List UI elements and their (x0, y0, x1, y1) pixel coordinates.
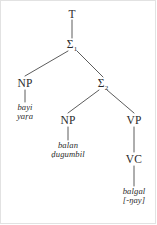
node-sigma2: Σ2 (98, 77, 108, 93)
node-vc: VC (126, 153, 142, 165)
node-np1-label: NP (17, 77, 32, 89)
node-t: T (68, 8, 75, 20)
terminal-vc: balgal [-ŋay] (123, 187, 146, 205)
edge-sigma1-np1 (25, 51, 68, 76)
node-vp: VP (126, 114, 141, 126)
node-vc-label: VC (126, 153, 142, 165)
node-sigma1: Σ1 (67, 38, 77, 54)
terminal-np1: bayi yaṛa (17, 103, 33, 121)
node-t-label: T (68, 8, 75, 20)
edge-sigma2-np2 (68, 90, 99, 113)
node-sigma2-label: Σ (98, 77, 105, 89)
terminal-vc-line2: [-ŋay] (123, 196, 146, 205)
terminal-np1-line2: yaṛa (17, 112, 33, 121)
node-np2: NP (60, 114, 75, 126)
edge-sigma2-vp (107, 90, 134, 113)
node-sigma1-subscript: 1 (74, 45, 78, 53)
node-sigma1-label: Σ (67, 38, 74, 50)
edge-sigma1-sigma2 (77, 51, 103, 77)
node-sigma2-subscript: 2 (105, 84, 109, 92)
syntax-tree-figure: T Σ1 NP Σ2 bayi yaṛa NP VP balan ḍugumbi… (0, 0, 157, 225)
terminal-np2-line2: ḍugumbil (51, 150, 84, 159)
terminal-np2: balan ḍugumbil (51, 141, 84, 159)
node-vp-label: VP (126, 114, 141, 126)
node-np2-label: NP (60, 114, 75, 126)
node-np1: NP (17, 77, 32, 89)
